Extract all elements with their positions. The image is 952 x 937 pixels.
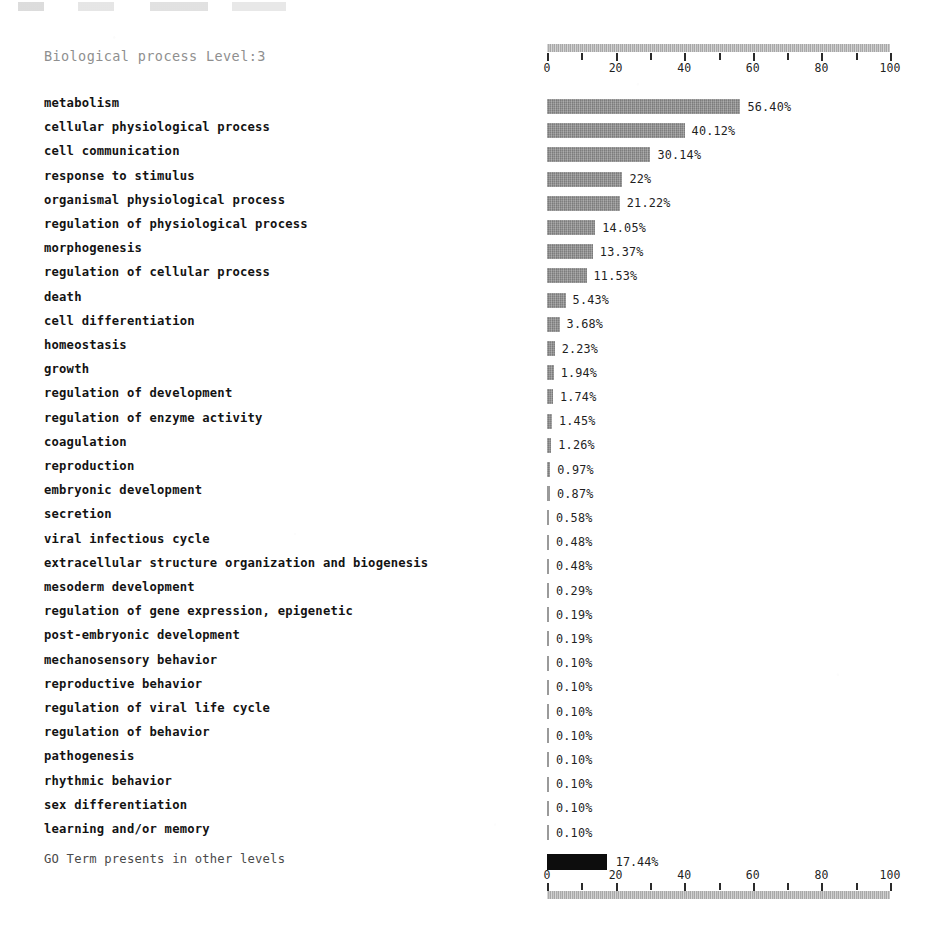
category-label: mesoderm development: [44, 580, 195, 594]
axis-tick-20: [616, 883, 618, 891]
chart-row: regulation of behavior0.10%: [0, 721, 952, 745]
bar-wrap: 0.97%: [547, 459, 594, 474]
axis-top-bar: [547, 44, 890, 52]
chart-row: regulation of gene expression, epigeneti…: [0, 600, 952, 624]
axis-tick-label-60: 60: [746, 868, 760, 882]
bar: [547, 293, 566, 308]
chart-row: sex differentiation0.10%: [0, 794, 952, 818]
bar-value-label: 0.10%: [556, 705, 593, 719]
axis-tick-label-80: 80: [814, 61, 828, 75]
bar-value-label: 21.22%: [627, 196, 671, 210]
bar-value-label: 2.23%: [562, 342, 599, 356]
bar: [547, 801, 549, 816]
bar-wrap: 13.37%: [547, 241, 644, 256]
category-label: homeostasis: [44, 338, 127, 352]
other-levels-value: 17.44%: [616, 855, 659, 869]
bar-wrap: 0.10%: [547, 725, 593, 740]
other-levels-row: GO Term presents in other levels 17.44%: [0, 849, 952, 871]
axis-tick-label-40: 40: [677, 868, 691, 882]
category-label: death: [44, 290, 82, 304]
chart-row: reproduction0.97%: [0, 455, 952, 479]
scan-artifact-smudge: [18, 2, 318, 11]
bar: [547, 389, 553, 404]
bar-value-label: 0.58%: [556, 511, 593, 525]
bar: [547, 510, 549, 525]
axis-tick-10: [581, 883, 583, 890]
chart-row: response to stimulus22%: [0, 165, 952, 189]
bar-wrap: 2.23%: [547, 338, 598, 353]
axis-tick-30: [650, 53, 652, 60]
bar: [547, 583, 549, 598]
axis-tick-70: [787, 883, 789, 890]
category-label: regulation of behavior: [44, 725, 210, 739]
bar: [547, 631, 549, 646]
category-label: organismal physiological process: [44, 193, 285, 207]
other-levels-bar: [547, 854, 607, 870]
chart-row: secretion0.58%: [0, 503, 952, 527]
axis-tick-0: [547, 883, 549, 891]
chart-row: mechanosensory behavior0.10%: [0, 649, 952, 673]
chart-row: cell differentiation3.68%: [0, 310, 952, 334]
category-label: regulation of gene expression, epigeneti…: [44, 604, 353, 618]
chart-row: cell communication30.14%: [0, 140, 952, 164]
bar: [547, 99, 740, 114]
axis-tick-30: [650, 883, 652, 890]
bar-value-label: 0.48%: [556, 535, 593, 549]
axis-tick-90: [856, 883, 858, 890]
bar: [547, 414, 552, 429]
axis-tick-20: [616, 53, 618, 61]
category-label: reproduction: [44, 459, 134, 473]
bar-value-label: 1.26%: [558, 438, 595, 452]
axis-bottom: 020406080100: [547, 869, 890, 899]
bar-value-label: 0.19%: [556, 608, 593, 622]
bar-value-label: 0.10%: [556, 729, 593, 743]
bar-value-label: 1.45%: [559, 414, 596, 428]
bar-value-label: 0.87%: [557, 487, 594, 501]
bar-wrap: 0.48%: [547, 532, 593, 547]
axis-bottom-bar: [547, 891, 890, 899]
axis-tick-label-80: 80: [814, 868, 828, 882]
bar-value-label: 40.12%: [692, 124, 736, 138]
chart-row: organismal physiological process21.22%: [0, 189, 952, 213]
bar-wrap: 0.58%: [547, 507, 593, 522]
chart-row: regulation of enzyme activity1.45%: [0, 407, 952, 431]
bar-wrap: 56.40%: [547, 96, 791, 111]
category-label: cellular physiological process: [44, 120, 270, 134]
bar: [547, 196, 620, 211]
chart-row: metabolism56.40%: [0, 92, 952, 116]
bar-value-label: 0.29%: [556, 584, 593, 598]
bar-wrap: 0.29%: [547, 580, 593, 595]
bar-value-label: 0.97%: [557, 463, 594, 477]
bar: [547, 220, 595, 235]
bar-value-label: 22%: [629, 172, 651, 186]
bar: [547, 317, 560, 332]
bar-wrap: 0.19%: [547, 604, 593, 619]
bar-value-label: 0.10%: [556, 801, 593, 815]
bar-value-label: 0.10%: [556, 753, 593, 767]
axis-tick-label-40: 40: [677, 61, 691, 75]
chart-row: pathogenesis0.10%: [0, 745, 952, 769]
bar-value-label: 14.05%: [602, 221, 646, 235]
bar: [547, 341, 555, 356]
bar: [547, 486, 550, 501]
axis-tick-50: [719, 883, 721, 890]
bar-wrap: 0.10%: [547, 653, 593, 668]
category-label: regulation of enzyme activity: [44, 411, 263, 425]
axis-tick-60: [753, 883, 755, 891]
category-label: regulation of physiological process: [44, 217, 308, 231]
bar-wrap: 0.10%: [547, 774, 593, 789]
bar-wrap: 0.10%: [547, 701, 593, 716]
category-label: regulation of development: [44, 386, 232, 400]
chart-row: growth1.94%: [0, 358, 952, 382]
bar: [547, 680, 549, 695]
category-label: metabolism: [44, 96, 119, 110]
bar-wrap: 0.48%: [547, 556, 593, 571]
chart-row: cellular physiological process40.12%: [0, 116, 952, 140]
category-label: regulation of viral life cycle: [44, 701, 270, 715]
bar-wrap: 0.10%: [547, 822, 593, 837]
axis-tick-0: [547, 53, 549, 61]
chart-row: reproductive behavior0.10%: [0, 673, 952, 697]
bar: [547, 244, 593, 259]
axis-tick-70: [787, 53, 789, 60]
bar-wrap: 21.22%: [547, 193, 671, 208]
